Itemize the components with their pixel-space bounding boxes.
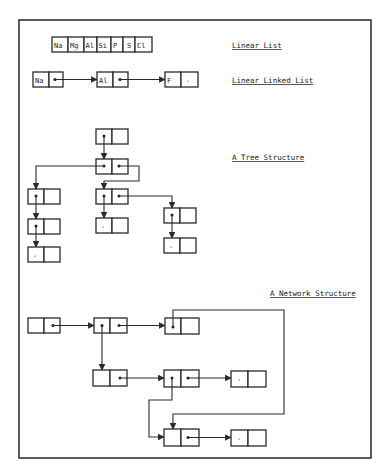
null-marker: - [33,252,37,260]
null-marker: - [101,223,105,231]
network-node [164,429,181,446]
array-element: Mg [70,42,78,50]
array-element: Cl [137,42,145,50]
node-value: Al [99,77,107,85]
label-linear-list: Linear List [232,41,282,50]
tree-edge [36,166,104,189]
array-element: Na [54,42,62,50]
data-structures-diagram: Na Mg Al Si P S Cl Linear List Na Al F -… [0,0,387,476]
network-node [93,370,110,386]
null-marker: - [169,243,173,251]
null-marker: - [237,435,241,443]
linked-list: Na Al F - [33,72,198,87]
array-element: P [113,42,117,50]
network-node [28,318,44,333]
node-value: Na [35,77,43,85]
array-element: Si [99,42,107,50]
null-marker: - [237,376,241,384]
tree-structure: - - - [28,129,196,262]
network-structure: - - [28,310,284,446]
label-tree: A Tree Structure [232,153,305,162]
label-network: A Network Structure [270,289,356,298]
null-marker: - [186,77,190,85]
array-element: Al [86,42,94,50]
node-value: F [167,77,171,85]
label-linked-list: Linear Linked List [232,76,313,85]
linear-list: Na Mg Al Si P S Cl [52,37,152,52]
array-element: S [127,42,131,50]
